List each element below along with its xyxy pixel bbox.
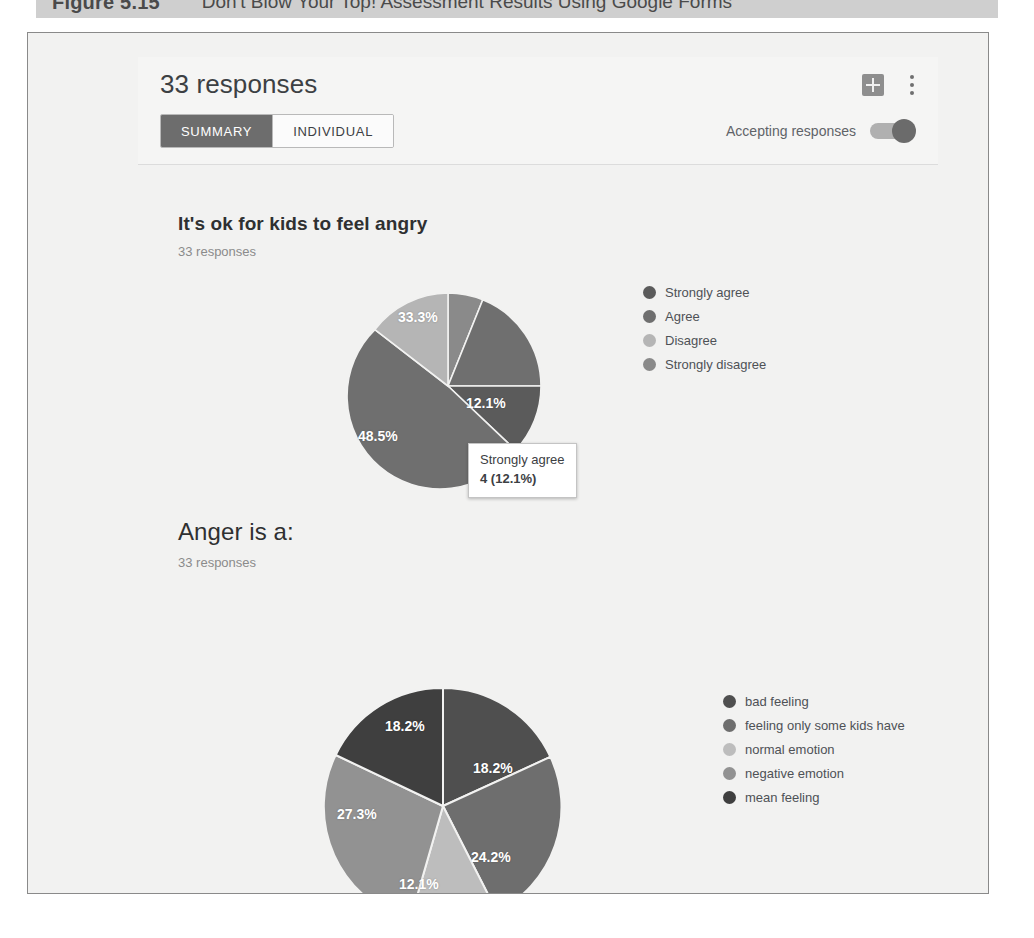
legend-swatch-strongly-agree: [643, 286, 656, 299]
view-toggle-group: SUMMARY INDIVIDUAL: [160, 114, 394, 148]
figure-caption-band: Figure 5.15 Don't Blow Your Top! Assessm…: [36, 0, 998, 18]
legend-label-negative-emotion: negative emotion: [745, 766, 844, 781]
accepting-responses-label: Accepting responses: [726, 123, 856, 139]
question-1-responses: 33 responses: [138, 244, 958, 259]
accepting-responses-control: Accepting responses: [726, 123, 920, 139]
pie-1-label-disagree: 33.3%: [398, 309, 438, 325]
question-block-1: It's ok for kids to feel angry 33 respon…: [138, 213, 958, 503]
pie-1-label-agree: 48.5%: [358, 428, 398, 444]
pie-2-label-normal-emotion: 12.1%: [399, 876, 439, 892]
legend-item-disagree[interactable]: Disagree: [643, 333, 766, 348]
pie-2-label-bad-feeling: 18.2%: [473, 760, 513, 776]
legend-swatch-disagree: [643, 334, 656, 347]
figure-caption-text: Don't Blow Your Top! Assessment Results …: [202, 0, 732, 13]
pie-2-label-mean-feeling: 18.2%: [385, 718, 425, 734]
accepting-responses-toggle[interactable]: [870, 123, 914, 139]
responses-count: 33 responses: [160, 69, 317, 100]
legend-item-bad-feeling[interactable]: bad feeling: [723, 694, 905, 709]
question-block-2: Anger is a: 33 responses: [138, 518, 958, 814]
legend-label-disagree: Disagree: [665, 333, 717, 348]
google-sheets-icon[interactable]: [862, 74, 884, 96]
pie-chart-2-svg: [323, 684, 573, 894]
legend-swatch-normal-emotion: [723, 743, 736, 756]
legend-swatch-agree: [643, 310, 656, 323]
pie-1-label-strongly-agree: 12.1%: [466, 395, 506, 411]
legend-label-bad-feeling: bad feeling: [745, 694, 809, 709]
pie-1-tooltip: Strongly agree 4 (12.1%): [468, 443, 577, 498]
legend-item-strongly-disagree[interactable]: Strongly disagree: [643, 357, 766, 372]
question-2-responses: 33 responses: [138, 555, 958, 570]
pie-1-tooltip-value: 4 (12.1%): [480, 470, 565, 489]
tab-summary[interactable]: SUMMARY: [161, 115, 272, 147]
responses-header-top: 33 responses: [138, 57, 938, 100]
header-actions: [862, 74, 922, 96]
question-2-title: Anger is a:: [138, 518, 958, 546]
responses-header: 33 responses SUMMARY INDIVIDUAL Acceptin…: [138, 57, 938, 165]
legend-item-feeling-only-some[interactable]: feeling only some kids have: [723, 718, 905, 733]
legend-label-strongly-agree: Strongly agree: [665, 285, 750, 300]
toggle-knob: [892, 119, 916, 143]
legend-item-mean-feeling[interactable]: mean feeling: [723, 790, 905, 805]
question-1-title: It's ok for kids to feel angry: [138, 213, 958, 235]
pie-2-label-negative-emotion: 27.3%: [337, 806, 377, 822]
pie-1-legend: Strongly agree Agree Disagree Strongly d…: [643, 285, 766, 372]
question-1-chart-area: 33.3% 48.5% 12.1% Strongly agree 4 (12.1…: [138, 273, 958, 503]
pie-2-legend: bad feeling feeling only some kids have …: [723, 694, 905, 805]
legend-swatch-mean-feeling: [723, 791, 736, 804]
responses-header-bottom: SUMMARY INDIVIDUAL Accepting responses: [138, 100, 938, 148]
legend-item-agree[interactable]: Agree: [643, 309, 766, 324]
legend-swatch-feeling-only-some: [723, 719, 736, 732]
screenshot-frame: 33 responses SUMMARY INDIVIDUAL Acceptin…: [27, 32, 989, 894]
legend-label-feeling-only-some: feeling only some kids have: [745, 718, 905, 733]
kebab-menu-icon[interactable]: [910, 75, 914, 95]
pie-chart-1: 33.3% 48.5% 12.1% Strongly agree 4 (12.1…: [338, 283, 568, 493]
pie-chart-2: 18.2% 18.2% 24.2% 12.1% 27.3%: [323, 684, 573, 894]
legend-label-normal-emotion: normal emotion: [745, 742, 835, 757]
legend-label-strongly-disagree: Strongly disagree: [665, 357, 766, 372]
legend-item-strongly-agree[interactable]: Strongly agree: [643, 285, 766, 300]
pie-1-tooltip-title: Strongly agree: [480, 451, 565, 470]
legend-swatch-strongly-disagree: [643, 358, 656, 371]
figure-number: Figure 5.15: [52, 0, 160, 14]
legend-item-negative-emotion[interactable]: negative emotion: [723, 766, 905, 781]
legend-item-normal-emotion[interactable]: normal emotion: [723, 742, 905, 757]
legend-swatch-negative-emotion: [723, 767, 736, 780]
tab-individual[interactable]: INDIVIDUAL: [272, 115, 393, 147]
legend-swatch-bad-feeling: [723, 695, 736, 708]
legend-label-mean-feeling: mean feeling: [745, 790, 819, 805]
pie-2-slices: [324, 688, 562, 894]
legend-label-agree: Agree: [665, 309, 700, 324]
pie-2-label-feeling-only-some: 24.2%: [471, 849, 511, 865]
question-2-chart-area: 18.2% 18.2% 24.2% 12.1% 27.3% bad feelin…: [138, 584, 958, 814]
